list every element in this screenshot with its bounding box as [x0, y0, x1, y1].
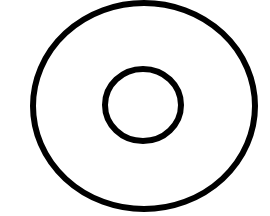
- outer-ring: [33, 3, 255, 209]
- concentric-rings-diagram: [0, 0, 270, 216]
- inner-ring: [105, 69, 181, 141]
